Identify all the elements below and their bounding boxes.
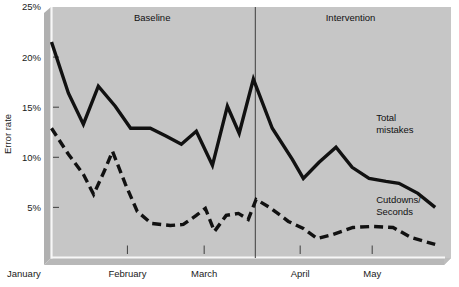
- y-tick-label: 25%: [22, 1, 42, 12]
- error-rate-line-chart: 25%20%15%10%5% JanuaryFebruaryMarchApril…: [0, 0, 459, 287]
- x-tick-label: January: [7, 268, 41, 279]
- y-tick-label: 10%: [22, 152, 42, 163]
- phase-label-baseline: Baseline: [134, 12, 170, 23]
- x-tick-label: February: [108, 268, 146, 279]
- x-tick-label: April: [291, 268, 310, 279]
- series-label-line-2: mistakes: [376, 124, 414, 135]
- y-tick-label: 5%: [27, 202, 41, 213]
- chart-container: 25%20%15%10%5% JanuaryFebruaryMarchApril…: [0, 0, 459, 287]
- y-axis-tick-labels: 25%20%15%10%5%: [22, 1, 42, 212]
- x-tick-label: March: [191, 268, 217, 279]
- y-axis-title: Error rate: [2, 114, 13, 154]
- x-axis-tick-labels: JanuaryFebruaryMarchAprilMay: [7, 268, 381, 279]
- y-tick-label: 20%: [22, 52, 42, 63]
- y-tick-label: 15%: [22, 102, 42, 113]
- x-tick-label: May: [363, 268, 381, 279]
- phase-label-intervention: Intervention: [326, 12, 376, 23]
